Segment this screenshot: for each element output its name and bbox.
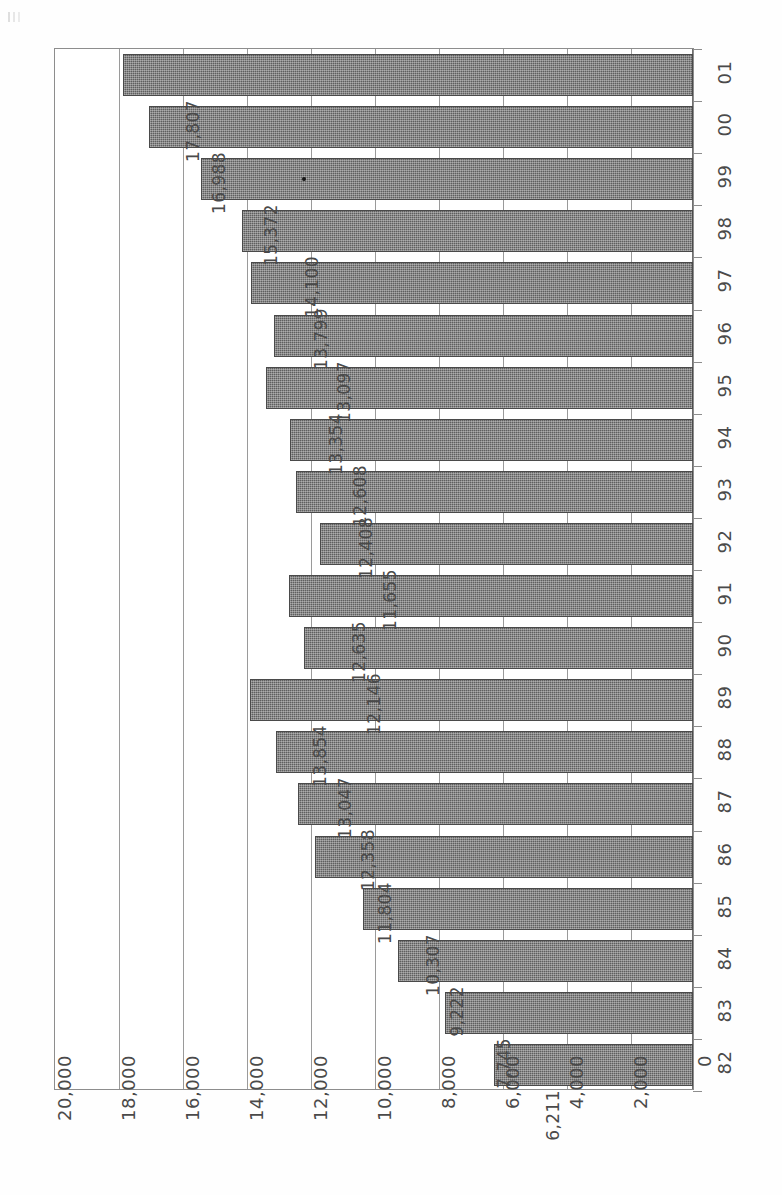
category-label-84: 84 — [714, 946, 735, 970]
bar-row — [53, 315, 693, 357]
axis-tick-label-0: 0 — [694, 1055, 715, 1145]
axis-tick-label-6000: 6,000 — [502, 1055, 523, 1145]
category-label-86: 86 — [714, 842, 735, 866]
bar-row — [53, 1044, 693, 1086]
value-label-99: 15,372 — [261, 204, 281, 266]
gridline-14000 — [247, 49, 248, 1089]
gridline-4000 — [567, 49, 568, 1089]
category-label-94: 94 — [714, 425, 735, 449]
value-label-84: 9,222 — [447, 986, 467, 1037]
value-label-97: 13,799 — [311, 308, 331, 370]
bar-row — [53, 158, 693, 200]
axis-tick-label-12000: 12,000 — [310, 1055, 331, 1145]
value-label-93: 12,408 — [356, 517, 376, 579]
gridline-6000 — [503, 49, 504, 1089]
axis-tick-label-10000: 10,000 — [374, 1055, 395, 1145]
axis-tick-label-2000: 2,000 — [630, 1055, 651, 1145]
category-label-00: 00 — [714, 113, 735, 137]
category-label-87: 87 — [714, 790, 735, 814]
category-label-99: 99 — [714, 165, 735, 189]
plot-area: 17,80716,98815,37214,10013,79913,09713,3… — [54, 48, 694, 1090]
category-label-93: 93 — [714, 477, 735, 501]
bar-82 — [494, 1044, 693, 1086]
value-label-00: 16,988 — [209, 152, 229, 214]
bar-row — [53, 783, 693, 825]
scan-artifact — [8, 12, 22, 22]
category-label-01: 01 — [714, 61, 735, 85]
category-label-85: 85 — [714, 894, 735, 918]
value-label-85: 10,307 — [423, 934, 443, 996]
bar-92 — [320, 523, 693, 565]
bar-row — [53, 367, 693, 409]
bar-85 — [363, 888, 693, 930]
value-label-88: 13,047 — [335, 777, 355, 839]
bar-row — [53, 262, 693, 304]
gridline-16000 — [183, 49, 184, 1089]
axis-tick-label-18000: 18,000 — [118, 1055, 139, 1145]
bar-91 — [289, 575, 693, 617]
bar-row — [53, 106, 693, 148]
axis-tick-label-4000: 4,000 — [566, 1055, 587, 1145]
category-label-89: 89 — [714, 686, 735, 710]
bar-row — [53, 888, 693, 930]
category-label-88: 88 — [714, 738, 735, 762]
category-label-92: 92 — [714, 530, 735, 554]
bar-row — [53, 627, 693, 669]
category-label-91: 91 — [714, 582, 735, 606]
category-label-90: 90 — [714, 634, 735, 658]
gridline-8000 — [439, 49, 440, 1089]
chart-page: 17,80716,98815,37214,10013,79913,09713,3… — [0, 0, 782, 1195]
bar-96 — [274, 315, 693, 357]
gridline-12000 — [311, 49, 312, 1089]
bar-00 — [149, 106, 693, 148]
bar-row — [53, 731, 693, 773]
bar-87 — [298, 783, 693, 825]
axis-tick-label-20000: 20,000 — [54, 1055, 75, 1145]
axis-tick-label-8000: 8,000 — [438, 1055, 459, 1145]
bar-01 — [123, 54, 693, 96]
bar-88 — [276, 731, 694, 773]
category-label-95: 95 — [714, 373, 735, 397]
bar-89 — [250, 679, 693, 721]
bar-row — [53, 210, 693, 252]
bar-95 — [266, 367, 693, 409]
bar-98 — [242, 210, 693, 252]
value-label-92: 11,655 — [380, 569, 400, 631]
value-label-95: 13,354 — [326, 413, 346, 475]
category-label-98: 98 — [714, 217, 735, 241]
gridline-2000 — [631, 49, 632, 1089]
bar-row — [53, 940, 693, 982]
gridline-18000 — [119, 49, 120, 1089]
axis-tick-label-14000: 14,000 — [246, 1055, 267, 1145]
bar-row — [53, 992, 693, 1034]
bar-83 — [445, 992, 693, 1034]
value-label-90: 12,146 — [364, 673, 384, 735]
value-label-89: 13,854 — [310, 725, 330, 787]
value-label-86: 11,804 — [375, 882, 395, 944]
bar-row — [53, 471, 693, 513]
bar-row — [53, 419, 693, 461]
axis-tick-label-16000: 16,000 — [182, 1055, 203, 1145]
bar-94 — [290, 419, 693, 461]
value-label-01: 17,807 — [183, 100, 203, 162]
bar-row — [53, 575, 693, 617]
category-label-83: 83 — [714, 998, 735, 1022]
ink-speck — [302, 177, 306, 181]
bar-row — [53, 54, 693, 96]
category-label-97: 97 — [714, 269, 735, 293]
bar-99 — [201, 158, 693, 200]
category-label-82: 82 — [714, 1051, 735, 1075]
value-axis: 20,00018,00016,00014,00012,00010,0008,00… — [54, 1094, 694, 1190]
category-axis: 0100999897969594939291908988878685848382 — [700, 48, 760, 1090]
category-label-96: 96 — [714, 321, 735, 345]
